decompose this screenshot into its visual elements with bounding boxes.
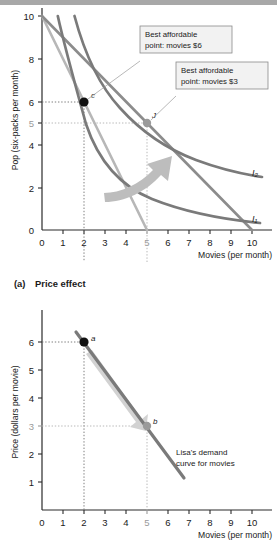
panel-a-ytick-6: 6 [29, 97, 34, 108]
svg-text:I₁: I₁ [252, 214, 258, 224]
callout-best-affordable-6: Best affordable point: movies $6 [140, 26, 232, 53]
panel-b-ytick-4: 4 [29, 393, 34, 404]
svg-text:I₂: I₂ [252, 168, 259, 178]
panel-a-ytick-2: 2 [29, 183, 34, 194]
point-a: a [79, 334, 96, 347]
lisas-demand-curve [76, 332, 184, 478]
budget-line-movies-6 [42, 16, 147, 230]
panel-b-xtick-0: 0 [39, 517, 44, 528]
panel-a-indifference: 10 8 6 5 4 2 0 0 1 2 3 4 5 6 7 [10, 8, 272, 262]
panel-b-demand: 6 5 4 3 2 1 0 1 2 3 4 5 6 7 8 [10, 310, 272, 540]
callout-1-line-2: point: movies $6 [145, 41, 202, 50]
point-a-label: a [91, 334, 96, 343]
panel-a-xtick-3: 3 [102, 237, 107, 248]
callout-2-leader-line [151, 96, 176, 120]
panel-a-ytick-10: 10 [23, 11, 34, 22]
curve-label-i1: I₁ [252, 214, 258, 224]
panel-b-ytick-1: 1 [29, 477, 34, 488]
panel-a-ytick-4: 4 [29, 140, 34, 151]
callout-1-leader-line [88, 61, 140, 99]
panel-b-x-ticks: 0 1 2 3 4 5 6 7 8 9 10 [39, 510, 257, 528]
panel-b-xtick-2: 2 [81, 517, 86, 528]
panel-a-xtick-7: 7 [186, 237, 191, 248]
panel-a-y-axis-title: Pop (six-packs per month) [10, 70, 20, 170]
panel-b-xtick-5: 5 [144, 517, 149, 528]
panel-a-ytick-5: 5 [29, 118, 34, 129]
panel-caption-label: Price effect [35, 278, 86, 289]
panel-b-xtick-6: 6 [165, 517, 170, 528]
panel-b-ytick-3: 3 [29, 421, 34, 432]
panel-b-ytick-6: 6 [29, 337, 34, 348]
demand-annotation-line-1: Lisa's demand [176, 448, 227, 457]
panel-b-axes [42, 310, 272, 510]
panel-a-x-ticks: 0 1 2 3 4 5 6 7 8 9 10 [39, 230, 257, 248]
panel-b-xtick-1: 1 [60, 517, 65, 528]
panel-a-xtick-0: 0 [39, 237, 44, 248]
callout-2-line-2: point: movies $3 [181, 77, 238, 86]
panel-a-xtick-4: 4 [123, 237, 128, 248]
panel-a-xtick-10: 10 [247, 237, 258, 248]
panel-b-xtick-9: 9 [228, 517, 233, 528]
panel-a-xtick-8: 8 [207, 237, 212, 248]
panel-a-xtick-9: 9 [228, 237, 233, 248]
panel-caption: (a) Price effect [14, 278, 86, 289]
curve-label-i2: I₂ [252, 168, 259, 178]
panel-a-ytick-0: 0 [29, 225, 34, 236]
panel-b-x-axis-title: Movies (per month) [198, 530, 272, 540]
economics-figure: 10 8 6 5 4 2 0 0 1 2 3 4 5 6 7 [0, 0, 277, 541]
panel-b-y-axis-title: Price (dollars per movie) [10, 365, 20, 458]
panel-b-ytick-5: 5 [29, 365, 34, 376]
demand-annotation-line-2: curve for movies [176, 459, 235, 468]
panel-b-xtick-4: 4 [123, 517, 128, 528]
panel-b-xtick-3: 3 [102, 517, 107, 528]
panel-b-y-ticks: 6 5 4 3 2 1 [29, 337, 42, 488]
panel-a-guide-lines [42, 102, 147, 262]
point-b-label: b [153, 417, 158, 426]
panel-a-xtick-6: 6 [165, 237, 170, 248]
point-c: c [79, 91, 95, 107]
demand-curve-annotation: Lisa's demand curve for movies [176, 448, 235, 468]
panel-a-ytick-8: 8 [29, 54, 34, 65]
panel-a-y-ticks: 10 8 6 5 4 2 0 [23, 11, 42, 237]
panel-b-ytick-2: 2 [29, 449, 34, 460]
callout-1-line-1: Best affordable [145, 30, 197, 39]
callout-best-affordable-3: Best affordable point: movies $3 [176, 62, 268, 89]
panel-a-xtick-1: 1 [60, 237, 65, 248]
panel-b-xtick-10: 10 [247, 517, 258, 528]
panel-b-xtick-8: 8 [207, 517, 212, 528]
panel-b-xtick-7: 7 [186, 517, 191, 528]
callout-2-line-1: Best affordable [181, 66, 233, 75]
panel-caption-id: (a) [14, 278, 25, 289]
panel-a-x-axis-title: Movies (per month) [198, 250, 272, 260]
